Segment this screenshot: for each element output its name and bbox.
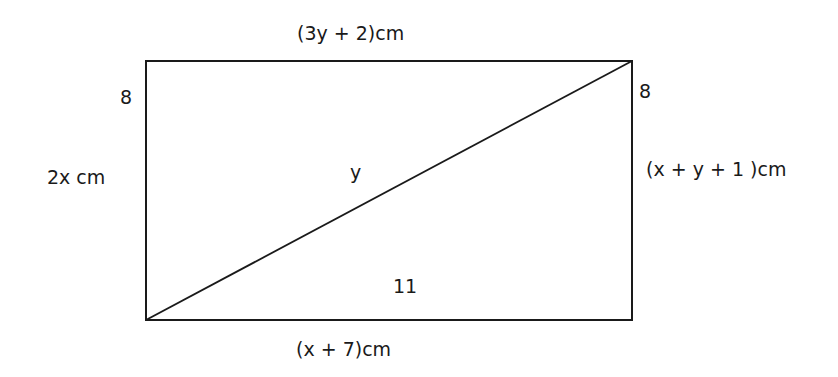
diagonal-upper-label: y: [350, 163, 361, 182]
top-right-corner-label: 8: [639, 82, 651, 101]
bottom-side-label: (x + 7)cm: [296, 340, 391, 359]
rectangle-diagram: [0, 0, 838, 377]
right-side-label: (x + y + 1 )cm: [646, 160, 786, 179]
lower-triangle-label: 11: [393, 277, 417, 296]
diagonal-line: [146, 61, 632, 320]
left-side-label: 2x cm: [47, 168, 105, 187]
top-left-corner-label: 8: [120, 88, 132, 107]
diagram-canvas: (3y + 2)cm 8 8 2x cm (x + y + 1 )cm y 11…: [0, 0, 838, 377]
top-side-label: (3y + 2)cm: [297, 24, 404, 43]
